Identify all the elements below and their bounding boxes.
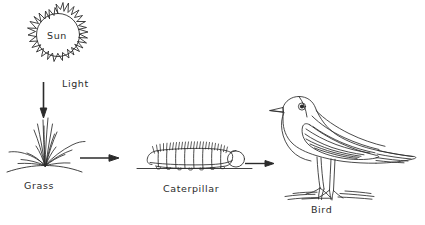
bird-icon bbox=[270, 97, 416, 201]
edge-sun-to-grass-arrow bbox=[40, 82, 47, 118]
diagram-canvas: Sun Light Grass Caterpillar Bird bbox=[0, 0, 425, 225]
edge-grass-to-caterpillar-arrow bbox=[80, 155, 119, 162]
node-label-bird: Bird bbox=[311, 205, 332, 215]
node-label-caterpillar: Caterpillar bbox=[163, 184, 219, 194]
grass-icon bbox=[7, 118, 85, 172]
node-label-grass: Grass bbox=[24, 181, 54, 191]
edge-label-light: Light bbox=[62, 79, 89, 89]
node-label-sun: Sun bbox=[47, 31, 67, 41]
caterpillar-icon bbox=[137, 142, 252, 170]
edge-caterpillar-to-bird-arrow bbox=[245, 161, 274, 167]
